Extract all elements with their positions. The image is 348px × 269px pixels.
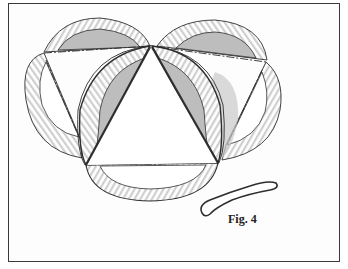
bottom-plate: [86, 163, 218, 201]
left-plate: [25, 53, 82, 158]
plates-illustration: [0, 0, 348, 269]
figure-caption: Fig. 4: [228, 212, 257, 227]
upper-left-plate: [44, 18, 150, 53]
rubber-band: [201, 182, 277, 216]
